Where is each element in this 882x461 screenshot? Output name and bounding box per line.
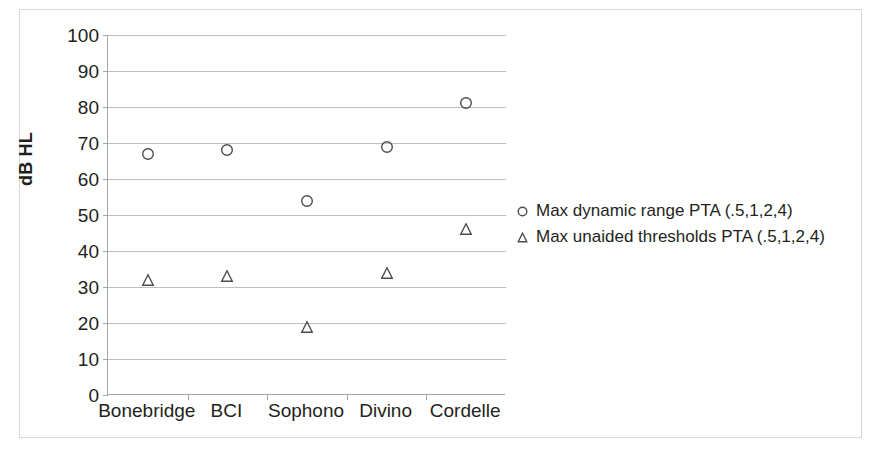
y-tick-mark (103, 71, 108, 72)
y-tick-mark (103, 323, 108, 324)
y-tick-label: 20 (39, 314, 99, 333)
x-axis-labels: BonebridgeBCISophonoDivinoCordelle (107, 400, 505, 430)
legend-item: Max unaided thresholds PTA (.5,1,2,4) (513, 224, 858, 250)
y-tick-label: 0 (39, 386, 99, 405)
circle-marker-icon (513, 202, 531, 220)
data-point-marker (141, 273, 154, 286)
x-tick-label: Bonebridge (98, 400, 195, 423)
data-point-marker (221, 270, 234, 283)
gridline (108, 71, 506, 72)
chart-legend: Max dynamic range PTA (.5,1,2,4)Max unai… (513, 198, 858, 250)
y-tick-label: 30 (39, 278, 99, 297)
y-tick-mark (103, 287, 108, 288)
gridline (108, 215, 506, 216)
y-tick-mark (103, 107, 108, 108)
y-tick-label: 40 (39, 242, 99, 261)
legend-label: Max unaided thresholds PTA (.5,1,2,4) (536, 227, 825, 247)
gridline (108, 323, 506, 324)
gridline (108, 107, 506, 108)
y-tick-label: 90 (39, 62, 99, 81)
chart-figure: dB HL 1009080706050403020100 BonebridgeB… (0, 0, 882, 461)
y-tick-mark (103, 251, 108, 252)
data-point-marker (460, 223, 473, 236)
gridline (108, 251, 506, 252)
y-tick-mark (103, 215, 108, 216)
y-tick-label: 100 (39, 26, 99, 45)
data-point-marker (221, 144, 234, 157)
gridline (108, 287, 506, 288)
y-tick-label: 70 (39, 134, 99, 153)
x-tick-label: Sophono (268, 400, 344, 423)
y-tick-mark (103, 359, 108, 360)
gridline (108, 143, 506, 144)
data-point-marker (301, 194, 314, 207)
y-tick-mark (103, 143, 108, 144)
x-tick-label: Divino (359, 400, 412, 423)
y-tick-label: 80 (39, 98, 99, 117)
y-tick-mark (103, 179, 108, 180)
x-tick-label: Cordelle (430, 400, 501, 423)
plot-area (107, 35, 505, 395)
x-tick-label: BCI (211, 400, 243, 423)
data-point-marker (380, 266, 393, 279)
legend-label: Max dynamic range PTA (.5,1,2,4) (536, 201, 793, 221)
y-tick-mark (103, 35, 108, 36)
y-tick-mark (103, 395, 108, 396)
y-axis-ticks: 1009080706050403020100 (33, 35, 99, 395)
legend-item: Max dynamic range PTA (.5,1,2,4) (513, 198, 858, 224)
triangle-marker-icon (513, 228, 531, 246)
gridline (108, 359, 506, 360)
gridline (108, 179, 506, 180)
data-point-marker (141, 147, 154, 160)
y-tick-label: 10 (39, 350, 99, 369)
gridline (108, 35, 506, 36)
y-tick-label: 60 (39, 170, 99, 189)
y-tick-label: 50 (39, 206, 99, 225)
